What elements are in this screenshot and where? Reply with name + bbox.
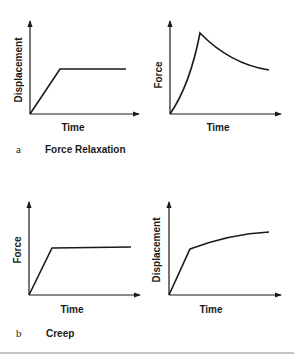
creep-curve bbox=[169, 232, 269, 295]
y-axis-label: Force bbox=[153, 61, 164, 89]
panel-caption-a: Force Relaxation bbox=[45, 144, 126, 155]
force-curve bbox=[29, 247, 131, 295]
figure-canvas: Displacement Time Force Time a Force Rel… bbox=[0, 0, 294, 358]
x-axis-label: Time bbox=[60, 304, 84, 315]
panel-letter-b: b bbox=[16, 327, 22, 339]
plot-b-displacement: Displacement Time bbox=[151, 202, 281, 315]
displacement-curve bbox=[30, 69, 126, 114]
x-axis-label: Time bbox=[61, 122, 85, 133]
y-axis-label: Displacement bbox=[13, 37, 24, 103]
plot-a-displacement: Displacement Time bbox=[13, 21, 139, 133]
force-relaxation-curve bbox=[170, 33, 269, 114]
plot-a-force: Force Time bbox=[153, 21, 281, 133]
x-axis-label: Time bbox=[206, 122, 230, 133]
panel-letter-a: a bbox=[16, 143, 21, 155]
x-axis-label: Time bbox=[199, 304, 223, 315]
plot-b-force: Force Time bbox=[12, 202, 140, 315]
y-axis-label: Displacement bbox=[151, 217, 162, 283]
y-axis-label: Force bbox=[12, 236, 23, 264]
panel-caption-b: Creep bbox=[46, 328, 74, 339]
